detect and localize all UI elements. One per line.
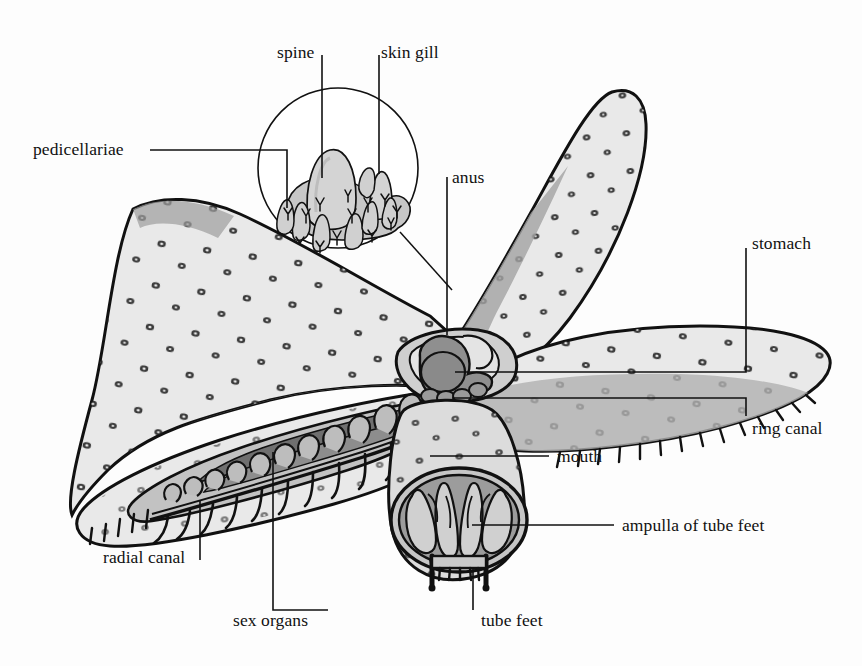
diagram-canvas: spine skin gill pedicellariae anus stoma… [0, 0, 862, 666]
label-anus: anus [452, 169, 484, 187]
label-spine: spine [277, 44, 314, 62]
label-ampulla-of-tube-feet: ampulla of tube feet [622, 517, 764, 535]
label-radial-canal: radial canal [103, 549, 185, 567]
label-stomach: stomach [752, 235, 811, 253]
label-tube-feet: tube feet [481, 612, 543, 630]
label-pedicellariae: pedicellariae [33, 141, 124, 159]
label-sex-organs: sex organs [233, 612, 308, 630]
label-mouth: mouth [557, 448, 602, 466]
central-disc [389, 329, 527, 592]
label-skin-gill: skin gill [381, 44, 439, 62]
label-ring-canal: ring canal [752, 420, 822, 438]
